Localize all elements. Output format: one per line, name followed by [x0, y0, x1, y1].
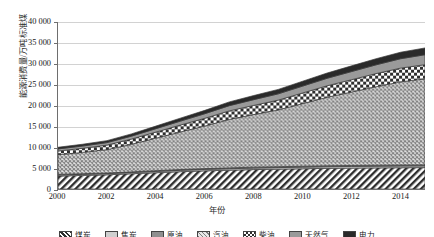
plot-area: [57, 22, 425, 190]
x-tick-label: 2010: [282, 192, 322, 201]
energy-consumption-stacked-area-chart: 能源消费量/万吨标准煤 年份: [0, 0, 434, 237]
legend-item[interactable]: 汽油: [197, 229, 229, 237]
legend-item[interactable]: 原油: [151, 229, 183, 237]
legend-item[interactable]: 电力: [343, 229, 375, 237]
legend-swatch: [197, 231, 210, 237]
legend-label: 天然气: [305, 229, 329, 237]
legend-swatch: [289, 231, 302, 237]
y-tick-label: 30 000: [3, 60, 51, 68]
x-tick-mark: [156, 188, 157, 190]
x-tick-mark: [58, 188, 59, 190]
x-axis-title: 年份: [0, 203, 434, 215]
legend-item[interactable]: 柴油: [243, 229, 275, 237]
y-tick-mark: [54, 64, 58, 65]
y-tick-label: 5 000: [3, 165, 51, 173]
legend-swatch: [105, 231, 118, 237]
x-tick-mark: [205, 188, 206, 190]
y-tick-label: 15 000: [3, 123, 51, 131]
chart-legend: 煤炭焦炭原油汽油柴油天然气电力: [0, 229, 434, 237]
legend-label: 柴油: [259, 229, 275, 237]
legend-label: 焦炭: [121, 229, 137, 237]
x-tick-label: 2014: [380, 192, 420, 201]
x-tick-mark: [401, 188, 402, 190]
legend-swatch: [151, 231, 164, 237]
x-tick-label: 2012: [331, 192, 371, 201]
legend-item[interactable]: 煤炭: [59, 229, 91, 237]
y-tick-label: 40 000: [3, 18, 51, 26]
area-series-汽油: [58, 79, 425, 175]
x-tick-mark: [107, 188, 108, 190]
y-tick-label: 25 000: [3, 81, 51, 89]
y-tick-label: 10 000: [3, 144, 51, 152]
x-tick-mark: [352, 188, 353, 190]
legend-label: 煤炭: [75, 229, 91, 237]
y-tick-mark: [54, 22, 58, 23]
area-svg: [58, 22, 425, 189]
legend-item[interactable]: 焦炭: [105, 229, 137, 237]
legend-item[interactable]: 天然气: [289, 229, 329, 237]
x-tick-label: 2004: [135, 192, 175, 201]
y-tick-label: 35 000: [3, 39, 51, 47]
x-tick-label: 2006: [184, 192, 224, 201]
legend-label: 原油: [167, 229, 183, 237]
y-tick-mark: [54, 43, 58, 44]
legend-swatch: [59, 231, 72, 237]
legend-swatch: [243, 231, 256, 237]
y-tick-mark: [54, 169, 58, 170]
x-tick-label: 2000: [37, 192, 77, 201]
legend-label: 汽油: [213, 229, 229, 237]
y-tick-mark: [54, 148, 58, 149]
stacked-area-layers: [58, 22, 425, 189]
legend-swatch: [343, 231, 356, 237]
y-tick-label: 20 000: [3, 102, 51, 110]
y-tick-mark: [54, 127, 58, 128]
x-tick-mark: [254, 188, 255, 190]
y-tick-mark: [54, 85, 58, 86]
y-tick-mark: [54, 190, 58, 191]
legend-label: 电力: [359, 229, 375, 237]
x-tick-mark: [303, 188, 304, 190]
x-tick-label: 2008: [233, 192, 273, 201]
x-tick-label: 2002: [86, 192, 126, 201]
y-tick-mark: [54, 106, 58, 107]
